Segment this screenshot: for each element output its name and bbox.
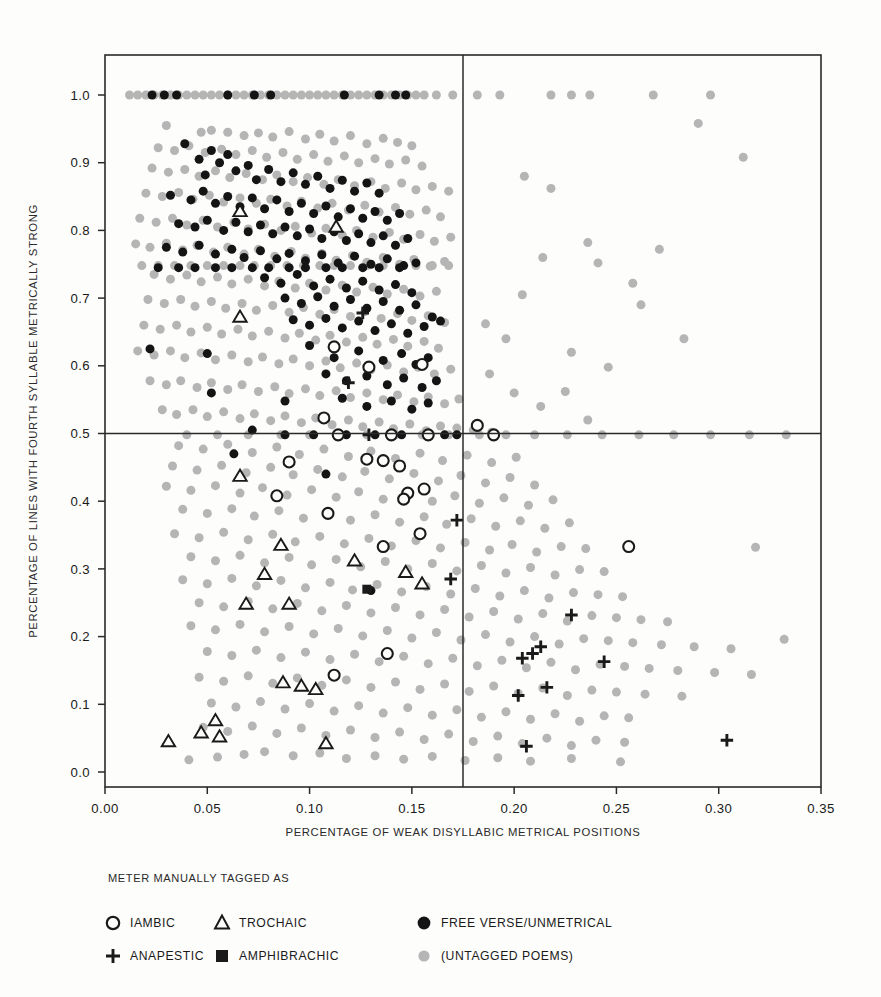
x-tick-label: 0.05 [194, 801, 221, 816]
data-point [663, 617, 672, 626]
data-point [291, 537, 300, 546]
legend-heading: METER MANUALLY TAGGED AS [108, 872, 289, 884]
data-point [628, 638, 637, 647]
data-point [555, 640, 564, 649]
data-point [172, 321, 181, 330]
data-point [203, 509, 212, 518]
data-point [301, 583, 310, 592]
data-point [309, 150, 318, 159]
data-point [186, 327, 195, 336]
data-point [254, 387, 263, 396]
legend-marker-gray-circle-icon [418, 950, 429, 961]
data-point [125, 91, 134, 100]
data-point [583, 238, 592, 247]
data-point [195, 241, 204, 250]
data-point [516, 516, 525, 525]
data-point [411, 258, 420, 267]
data-point [420, 337, 429, 346]
data-point [655, 245, 664, 254]
data-point [223, 192, 232, 201]
data-point [375, 263, 384, 272]
data-point [236, 620, 245, 629]
data-point [285, 553, 294, 562]
data-point [330, 302, 339, 311]
data-point [180, 353, 189, 362]
data-point [154, 143, 163, 152]
data-point [432, 628, 441, 637]
data-point [276, 576, 285, 585]
data-point [645, 664, 654, 673]
data-point [520, 172, 529, 181]
data-point [315, 130, 324, 139]
data-point [186, 486, 195, 495]
data-point [444, 730, 453, 739]
data-point [191, 91, 200, 100]
data-point [600, 711, 609, 720]
data-point [276, 177, 285, 186]
data-point [495, 91, 504, 100]
data-point [501, 707, 510, 716]
data-point [244, 227, 253, 236]
data-point [506, 473, 515, 482]
y-axis-title: PERCENTAGE OF LINES WITH FOURTH SYLLABLE… [27, 204, 39, 638]
data-point [305, 225, 314, 234]
data-point [289, 168, 298, 177]
data-point [184, 755, 193, 764]
data-point [231, 703, 240, 712]
legend-marker-open-circle-icon [107, 917, 119, 929]
data-point [690, 642, 699, 651]
data-point [256, 246, 265, 255]
data-point [350, 650, 359, 659]
data-point [270, 382, 279, 391]
legend-item: (UNTAGGED POEMS) [418, 949, 573, 963]
data-point [162, 482, 171, 491]
data-point [383, 254, 392, 263]
data-point [432, 376, 441, 385]
data-point [405, 210, 414, 219]
x-tick-label: 0.25 [603, 801, 630, 816]
data-point [217, 329, 226, 338]
data-point [301, 384, 310, 393]
data-point-open-circle [394, 460, 405, 471]
data-point [436, 317, 445, 326]
data-point [195, 598, 204, 607]
data-point [291, 222, 300, 231]
data-point [317, 250, 326, 259]
data-point [383, 626, 392, 635]
data-point [346, 131, 355, 140]
y-tick-label: 0.0 [70, 765, 90, 780]
data-point [485, 369, 494, 378]
data-point [233, 325, 242, 334]
data-point [278, 148, 287, 157]
data-point [563, 430, 572, 439]
data-point [174, 188, 183, 197]
data-point [446, 589, 455, 598]
data-point [203, 647, 212, 656]
y-tick-label: 0.2 [70, 629, 90, 644]
data-point [266, 416, 275, 425]
data-point [420, 512, 429, 521]
data-point [581, 544, 590, 553]
data-point [739, 153, 748, 162]
data-point [575, 717, 584, 726]
data-point [354, 158, 363, 167]
data-point [493, 753, 502, 762]
data-point [465, 612, 474, 621]
data-point [301, 648, 310, 657]
data-point [411, 185, 420, 194]
data-point [452, 566, 461, 575]
data-point [203, 216, 212, 225]
data-point [217, 461, 226, 470]
data-point [436, 212, 445, 221]
data-point [391, 241, 400, 250]
data-point [193, 383, 202, 392]
data-point [397, 349, 406, 358]
data-point [594, 258, 603, 267]
data-point [170, 146, 179, 155]
data-point [461, 538, 470, 547]
data-point [219, 407, 228, 416]
data-point [240, 253, 249, 262]
data-point [397, 430, 406, 439]
data-point [321, 369, 330, 378]
data-point [346, 261, 355, 270]
